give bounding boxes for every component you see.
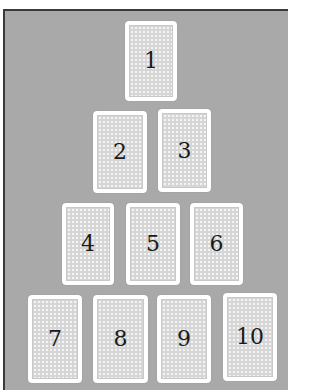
card-back-pattern: 7 bbox=[32, 299, 78, 379]
card-number: 9 bbox=[177, 328, 191, 350]
card-number: 1 bbox=[144, 50, 158, 72]
card-9[interactable]: 9 bbox=[157, 295, 211, 383]
card-8[interactable]: 8 bbox=[93, 295, 148, 383]
card-back-pattern: 5 bbox=[130, 207, 176, 281]
card-back-pattern: 10 bbox=[227, 297, 273, 377]
card-back-pattern: 2 bbox=[97, 115, 143, 189]
card-back-pattern: 1 bbox=[129, 25, 173, 97]
card-number: 5 bbox=[146, 233, 160, 255]
card-3[interactable]: 3 bbox=[158, 109, 211, 192]
card-number: 3 bbox=[178, 140, 192, 162]
card-10[interactable]: 10 bbox=[223, 293, 277, 381]
card-back-pattern: 3 bbox=[162, 113, 207, 188]
card-number: 7 bbox=[48, 328, 62, 350]
card-4[interactable]: 4 bbox=[62, 203, 114, 285]
card-back-pattern: 8 bbox=[97, 299, 144, 379]
card-number: 2 bbox=[113, 141, 127, 163]
card-number: 4 bbox=[81, 233, 95, 255]
card-7[interactable]: 7 bbox=[28, 295, 82, 383]
card-6[interactable]: 6 bbox=[190, 203, 243, 285]
card-back-pattern: 4 bbox=[66, 207, 110, 281]
card-1[interactable]: 1 bbox=[125, 21, 177, 101]
card-back-pattern: 6 bbox=[194, 207, 239, 281]
card-number: 8 bbox=[114, 328, 128, 350]
card-2[interactable]: 2 bbox=[93, 111, 147, 193]
card-back-pattern: 9 bbox=[161, 299, 207, 379]
card-number: 6 bbox=[210, 233, 224, 255]
card-5[interactable]: 5 bbox=[126, 203, 180, 285]
card-number: 10 bbox=[236, 326, 264, 348]
